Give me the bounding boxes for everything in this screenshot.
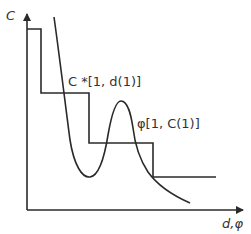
- step-function-line: [27, 29, 216, 177]
- step-function-label: C *[1, d(1)]: [68, 74, 141, 89]
- diagram-canvas: C d,φ C *[1, d(1)] φ[1, C(1)]: [0, 0, 251, 234]
- phi-curve-line: [54, 17, 190, 203]
- x-axis-label: d,φ: [222, 216, 243, 231]
- curve-label: φ[1, C(1)]: [137, 116, 200, 131]
- y-axis-label: C: [6, 8, 16, 23]
